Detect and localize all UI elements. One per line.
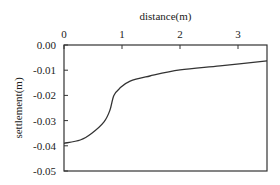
- x-tick-label: 2: [177, 28, 183, 40]
- settlement-line: [64, 61, 267, 143]
- x-axis-label: distance(m): [140, 10, 192, 23]
- y-tick-label: -0.02: [33, 89, 56, 101]
- y-axis-label: settlement(m): [12, 77, 25, 138]
- y-tick-label: 0.00: [37, 39, 57, 51]
- y-tick-label: -0.03: [33, 115, 56, 127]
- y-tick-label: -0.04: [33, 140, 56, 152]
- settlement-chart: 01230.00-0.01-0.02-0.03-0.04-0.05distanc…: [0, 0, 280, 185]
- y-tick-label: -0.01: [33, 64, 56, 76]
- x-tick-label: 1: [119, 28, 125, 40]
- x-tick-label: 0: [61, 28, 67, 40]
- y-tick-label: -0.05: [33, 165, 56, 177]
- x-tick-label: 3: [235, 28, 241, 40]
